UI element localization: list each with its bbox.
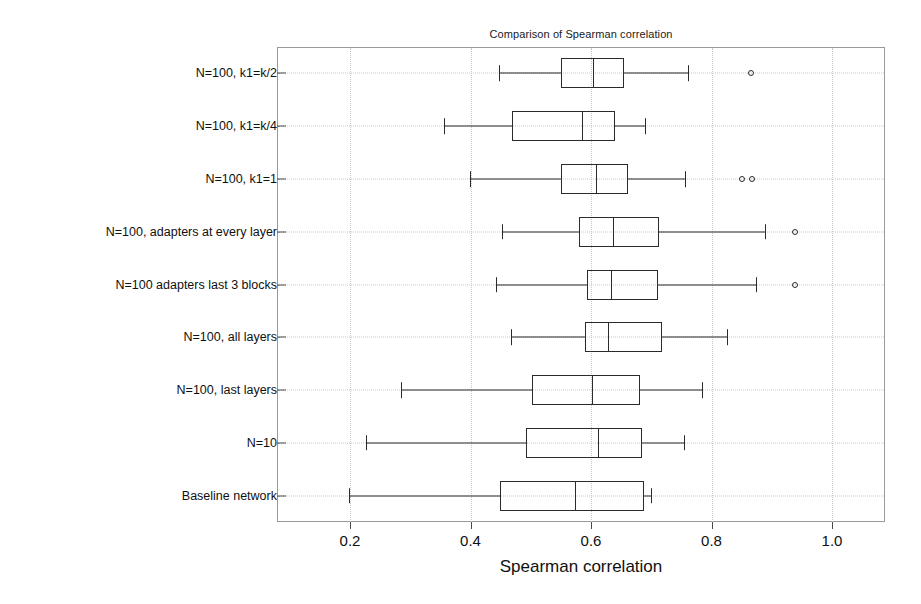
whisker-high-cap: [684, 435, 685, 451]
whisker-low-cap: [444, 118, 445, 134]
whisker-high-line: [659, 231, 764, 232]
whisker-high-line: [624, 73, 688, 74]
box-iqr: [561, 164, 627, 194]
box-iqr: [587, 270, 659, 300]
y-axis-label: N=100, k1=k/4: [0, 119, 283, 133]
whisker-low-line: [444, 126, 512, 127]
box-iqr: [585, 322, 662, 352]
whisker-low-cap: [401, 382, 402, 398]
outlier-point: [792, 282, 798, 288]
y-axis-label: N=100, k1=k/2: [0, 66, 283, 80]
whisker-low-line: [366, 442, 526, 443]
x-axis-title: Spearman correlation: [277, 557, 885, 577]
outlier-point: [792, 229, 798, 235]
outlier-point: [748, 70, 754, 76]
box-iqr: [526, 428, 642, 458]
gridline-vertical: [350, 48, 351, 522]
whisker-low-cap: [349, 488, 350, 504]
y-axis-label: Baseline network: [0, 489, 283, 503]
median-line: [598, 428, 599, 458]
x-tick-mark: [832, 522, 833, 529]
x-tick-mark: [471, 522, 472, 529]
whisker-high-cap: [756, 277, 757, 293]
whisker-low-line: [349, 495, 500, 496]
whisker-low-line: [511, 337, 585, 338]
box-iqr: [512, 111, 615, 141]
whisker-low-line: [502, 231, 579, 232]
x-tick-mark: [350, 522, 351, 529]
gridline-vertical: [832, 48, 833, 522]
box-iqr: [532, 375, 640, 405]
gridline-vertical: [712, 48, 713, 522]
x-tick-label: 1.0: [822, 532, 843, 549]
whisker-high-line: [644, 495, 651, 496]
whisker-low-cap: [470, 171, 471, 187]
y-axis-label: N=100 adapters last 3 blocks: [0, 278, 283, 292]
y-axis-label: N=100, adapters at every layer: [0, 225, 283, 239]
whisker-high-cap: [645, 118, 646, 134]
box-plot-chart: Comparison of Spearman correlation N=100…: [0, 0, 921, 604]
x-tick-label: 0.8: [701, 532, 722, 549]
whisker-low-line: [496, 284, 587, 285]
whisker-high-line: [615, 126, 645, 127]
whisker-high-cap: [765, 224, 766, 240]
x-tick-label: 0.4: [460, 532, 481, 549]
whisker-low-cap: [499, 66, 500, 82]
whisker-low-cap: [502, 224, 503, 240]
whisker-high-cap: [688, 66, 689, 82]
y-axis-label: N=10: [0, 436, 283, 450]
median-line: [575, 481, 576, 511]
whisker-high-cap: [651, 488, 652, 504]
whisker-low-line: [401, 390, 532, 391]
whisker-high-line: [642, 442, 684, 443]
median-line: [613, 217, 614, 247]
whisker-high-line: [658, 284, 756, 285]
whisker-low-cap: [366, 435, 367, 451]
outlier-point: [749, 176, 755, 182]
whisker-high-cap: [727, 329, 728, 345]
y-axis-label: N=100, all layers: [0, 330, 283, 344]
whisker-high-line: [662, 337, 727, 338]
whisker-high-cap: [702, 382, 703, 398]
box-iqr: [579, 217, 659, 247]
gridline-vertical: [471, 48, 472, 522]
median-line: [593, 58, 594, 88]
median-line: [596, 164, 597, 194]
x-tick-label: 0.2: [340, 532, 361, 549]
median-line: [582, 111, 583, 141]
median-line: [608, 322, 609, 352]
whisker-low-line: [499, 73, 562, 74]
whisker-low-cap: [511, 329, 512, 345]
median-line: [592, 375, 593, 405]
whisker-low-cap: [496, 277, 497, 293]
x-tick-mark: [591, 522, 592, 529]
whisker-high-line: [628, 178, 685, 179]
outlier-point: [739, 176, 745, 182]
whisker-high-cap: [685, 171, 686, 187]
y-axis-label: N=100, k1=1: [0, 172, 283, 186]
median-line: [611, 270, 612, 300]
whisker-high-line: [640, 390, 702, 391]
x-tick-mark: [712, 522, 713, 529]
box-iqr: [500, 481, 644, 511]
x-tick-label: 0.6: [581, 532, 602, 549]
y-axis-label: N=100, last layers: [0, 383, 283, 397]
chart-title: Comparison of Spearman correlation: [277, 28, 885, 40]
whisker-low-line: [470, 178, 562, 179]
